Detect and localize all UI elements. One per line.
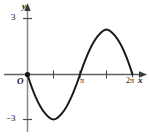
y-axis-label: y: [22, 2, 26, 11]
origin-label: O: [17, 77, 24, 86]
x-tick-label-pi: π: [80, 77, 84, 85]
origin-point-marker: [25, 72, 30, 77]
x-tick-label-2pi: 2π: [126, 77, 134, 85]
x-axis-label: x: [138, 76, 143, 85]
sine-curve-figure: y x O 3 −3 π 2π: [0, 0, 149, 136]
y-tick-label-3: 3: [11, 13, 16, 22]
coordinate-plot: [0, 0, 149, 136]
y-tick-label-neg3: −3: [6, 114, 16, 123]
